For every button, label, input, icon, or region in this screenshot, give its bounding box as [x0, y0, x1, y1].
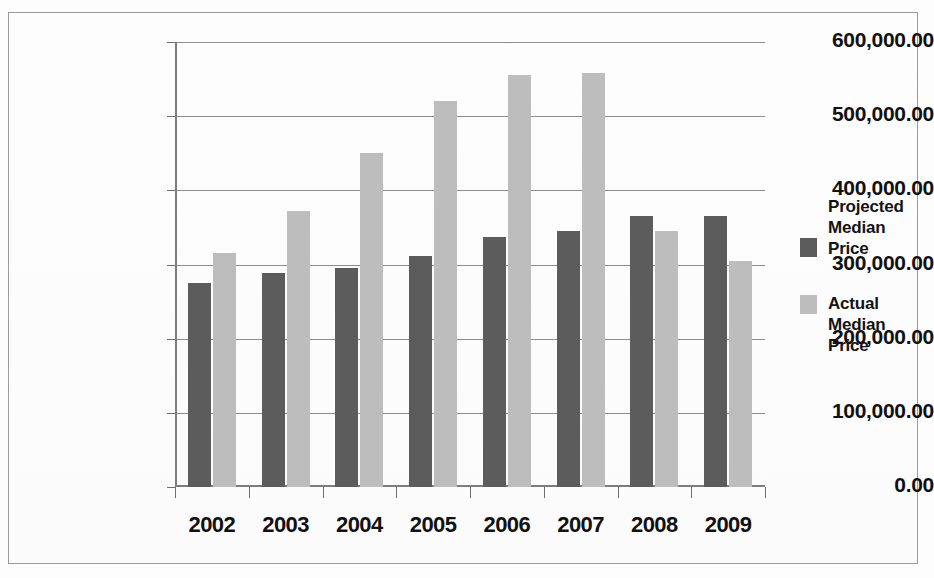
bar-projected-2002: [188, 283, 211, 487]
bar-actual-2008: [655, 231, 678, 487]
x-axis-tick: [544, 487, 545, 498]
chart-legend: Projected Median Price Actual Median Pri…: [800, 196, 925, 382]
bars-layer: [175, 42, 765, 487]
x-axis-tick-label-2008: 2008: [618, 512, 692, 538]
legend-label-actual-line1: Actual: [828, 293, 925, 314]
bar-projected-2007: [557, 231, 580, 487]
bar-projected-2009: [704, 216, 727, 487]
bar-actual-2002: [213, 253, 236, 487]
x-axis-tick: [691, 487, 692, 498]
legend-label-projected-line2: Median: [828, 217, 925, 238]
x-axis-tick-label-2005: 2005: [396, 512, 470, 538]
bar-projected-2006: [483, 237, 506, 487]
x-axis-tick: [175, 487, 176, 498]
legend-label-projected-line1: Projected: [828, 196, 925, 217]
legend-entry-projected[interactable]: Projected Median Price: [800, 196, 925, 259]
legend-label-actual-line2: Median: [828, 314, 925, 335]
bar-projected-2008: [630, 216, 653, 487]
bar-actual-2003: [287, 211, 310, 487]
bar-projected-2004: [335, 268, 358, 487]
projected-swatch-icon: [800, 238, 817, 257]
legend-label-projected: Projected Median Price: [828, 196, 925, 259]
x-axis-tick-label-2007: 2007: [544, 512, 618, 538]
y-axis-tick-label: 0.00: [774, 473, 934, 497]
bar-actual-2005: [434, 101, 457, 487]
legend-entry-actual[interactable]: Actual Median Price: [800, 293, 925, 356]
chart-figure: 0.00100,000.00200,000.00300,000.00400,00…: [0, 0, 934, 578]
x-axis-tick-label-2003: 2003: [249, 512, 323, 538]
bar-actual-2006: [508, 75, 531, 487]
legend-label-projected-line3: Price: [828, 238, 925, 259]
bar-actual-2009: [729, 261, 752, 487]
y-axis-tick-label: 100,000.00: [774, 399, 934, 423]
x-axis-tick: [618, 487, 619, 498]
x-axis-tick: [765, 487, 766, 498]
bar-actual-2007: [582, 73, 605, 487]
x-axis-tick: [470, 487, 471, 498]
x-axis-tick-label-2009: 2009: [691, 512, 765, 538]
x-axis-tick-label-2006: 2006: [470, 512, 544, 538]
x-axis-tick: [323, 487, 324, 498]
actual-swatch-icon: [800, 295, 817, 314]
bar-projected-2003: [262, 273, 285, 487]
bar-actual-2004: [360, 153, 383, 487]
x-axis-tick: [396, 487, 397, 498]
x-axis-tick-label-2002: 2002: [175, 512, 249, 538]
legend-label-actual-line3: Price: [828, 335, 925, 356]
x-axis-tick-label-2004: 2004: [323, 512, 397, 538]
y-axis-tick-label: 500,000.00: [774, 102, 934, 126]
y-axis-tick-label: 600,000.00: [774, 28, 934, 52]
x-axis-tick: [249, 487, 250, 498]
legend-label-actual: Actual Median Price: [828, 293, 925, 356]
bar-projected-2005: [409, 256, 432, 487]
